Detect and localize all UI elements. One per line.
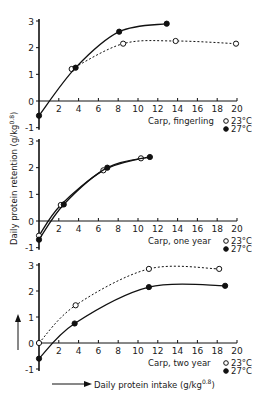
x-tick-label: 12 bbox=[152, 224, 163, 234]
x-tick-label: 2 bbox=[56, 346, 62, 356]
x-tick-label: 20 bbox=[231, 104, 243, 114]
x-tick-label: 10 bbox=[132, 346, 144, 356]
y-tick-label: 1 bbox=[28, 70, 34, 80]
y-tick-label: -1 bbox=[25, 365, 34, 375]
y-tick-label: 2 bbox=[28, 287, 34, 297]
filled-marker bbox=[164, 21, 169, 26]
x-tick-label: 8 bbox=[115, 346, 121, 356]
arrowhead-icon bbox=[84, 381, 92, 387]
x-tick-label: 18 bbox=[211, 346, 223, 356]
x-tick-label: 20 bbox=[231, 346, 243, 356]
series-line bbox=[39, 24, 167, 116]
x-tick-label: 6 bbox=[96, 104, 102, 114]
filled-marker bbox=[105, 165, 110, 170]
series-line bbox=[72, 41, 236, 69]
x-tick-label: 10 bbox=[132, 224, 144, 234]
y-tick-label: 1 bbox=[28, 313, 34, 323]
y-tick-label: 3 bbox=[28, 261, 34, 271]
chart-figure: -101232468101214161820Carp, fingerling23… bbox=[0, 0, 267, 404]
y-axis-label: Daily protein retention (g/kg0.8) bbox=[8, 112, 19, 245]
open-marker bbox=[121, 41, 126, 46]
x-tick-label: 10 bbox=[132, 104, 144, 114]
x-tick-label: 12 bbox=[152, 104, 163, 114]
legend-filled-icon bbox=[224, 369, 229, 374]
filled-marker bbox=[73, 65, 78, 70]
filled-marker bbox=[223, 283, 228, 288]
y-tick-label: -1 bbox=[25, 243, 34, 253]
x-tick-label: 14 bbox=[172, 104, 184, 114]
x-tick-label: 16 bbox=[192, 346, 204, 356]
open-marker bbox=[146, 266, 151, 271]
legend-open-icon bbox=[224, 361, 229, 366]
open-marker bbox=[73, 303, 78, 308]
x-tick-label: 16 bbox=[192, 104, 204, 114]
panel-2: -101232468101214161820Carp, one year23°C… bbox=[25, 137, 252, 255]
legend-27c: 27°C bbox=[231, 124, 252, 134]
y-tick-label: 0 bbox=[28, 97, 34, 107]
filled-marker bbox=[147, 154, 152, 159]
x-tick-label: 14 bbox=[172, 346, 184, 356]
x-axis-label: Daily protein intake (g/kg0.8) bbox=[94, 378, 215, 390]
y-tick-label: 2 bbox=[28, 43, 34, 53]
panel-1: -101232468101214161820Carp, fingerling23… bbox=[25, 17, 252, 135]
x-tick-label: 12 bbox=[152, 346, 163, 356]
x-tick-label: 20 bbox=[231, 224, 243, 234]
panel-title: Carp, two year bbox=[148, 358, 211, 368]
x-tick-label: 4 bbox=[76, 104, 82, 114]
legend-filled-icon bbox=[224, 247, 229, 252]
filled-marker bbox=[36, 356, 41, 361]
open-marker bbox=[36, 340, 41, 345]
legend-27c: 27°C bbox=[231, 366, 252, 376]
filled-marker bbox=[61, 202, 66, 207]
x-tick-label: 4 bbox=[76, 224, 82, 234]
x-tick-label: 6 bbox=[96, 346, 102, 356]
x-tick-label: 18 bbox=[211, 104, 223, 114]
y-tick-label: 1 bbox=[28, 190, 34, 200]
y-tick-label: 0 bbox=[28, 339, 34, 349]
open-marker bbox=[233, 41, 238, 46]
filled-marker bbox=[72, 321, 77, 326]
panel-3: -101232468101214161820Carp, two year23°C… bbox=[25, 261, 252, 377]
x-tick-label: 18 bbox=[211, 224, 223, 234]
x-tick-label: 2 bbox=[56, 104, 62, 114]
series-line bbox=[39, 158, 141, 235]
open-marker bbox=[217, 266, 222, 271]
x-tick-label: 8 bbox=[115, 224, 121, 234]
filled-marker bbox=[146, 285, 151, 290]
y-tick-label: 0 bbox=[28, 217, 34, 227]
filled-marker bbox=[36, 237, 41, 242]
y-tick-label: 2 bbox=[28, 163, 34, 173]
y-tick-label: -1 bbox=[25, 123, 34, 133]
panel-title: Carp, one year bbox=[148, 236, 211, 246]
y-tick-label: 3 bbox=[28, 17, 34, 27]
x-tick-label: 14 bbox=[172, 224, 184, 234]
legend-27c: 27°C bbox=[231, 244, 252, 254]
legend-open-icon bbox=[224, 239, 229, 244]
series-line bbox=[39, 266, 219, 343]
legend-filled-icon bbox=[224, 127, 229, 132]
x-tick-label: 2 bbox=[56, 224, 62, 234]
filled-marker bbox=[36, 113, 41, 118]
x-tick-label: 8 bbox=[115, 104, 121, 114]
panel-title: Carp, fingerling bbox=[148, 116, 214, 126]
x-tick-label: 16 bbox=[192, 224, 204, 234]
y-tick-label: 3 bbox=[28, 137, 34, 147]
open-marker bbox=[173, 38, 178, 43]
x-tick-label: 4 bbox=[76, 346, 82, 356]
arrowhead-icon bbox=[15, 314, 21, 322]
x-tick-label: 6 bbox=[96, 224, 102, 234]
legend-open-icon bbox=[224, 119, 229, 124]
filled-marker bbox=[117, 29, 122, 34]
